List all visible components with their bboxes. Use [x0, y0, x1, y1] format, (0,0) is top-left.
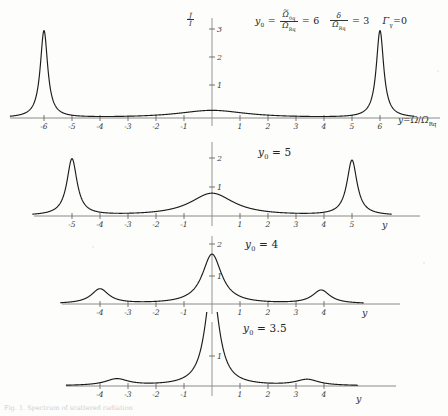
- panel4-yticks: 1: [209, 352, 222, 361]
- svg-text:1: 1: [238, 220, 243, 229]
- panel4-x-axis-label: y: [355, 393, 362, 404]
- svg-text:5: 5: [350, 220, 355, 229]
- svg-text:-1: -1: [180, 122, 187, 130]
- figure-root: y0 = Ω0q ΩRq = 6 δ ΩRq = 3 Γγ=0 J I y=Ω/…: [0, 0, 448, 416]
- svg-text:3: 3: [217, 25, 222, 34]
- svg-text:-4: -4: [96, 390, 104, 399]
- figure-caption: Fig. 1. Spectrum of scattered radiation: [4, 404, 444, 416]
- scan-speck: [92, 246, 94, 248]
- svg-text:-5: -5: [68, 122, 76, 130]
- svg-text:2: 2: [216, 53, 222, 62]
- svg-text:1: 1: [217, 352, 222, 361]
- svg-text:1: 1: [238, 122, 243, 130]
- svg-text:-4: -4: [96, 122, 104, 130]
- svg-text:5: 5: [350, 122, 355, 130]
- svg-text:1: 1: [238, 390, 243, 399]
- svg-text:-6: -6: [40, 122, 48, 130]
- svg-text:-2: -2: [152, 220, 160, 229]
- panel4-xticklabels: -4 -3 -2 -1 1 2 3 4: [96, 390, 326, 399]
- svg-text:3: 3: [294, 122, 299, 130]
- svg-text:-5: -5: [68, 220, 76, 229]
- svg-text:2: 2: [265, 220, 271, 229]
- panel2-xticklabels: -5 -4 -3 -2 -1 1 2 3 4 5: [68, 220, 354, 229]
- panel-label-2: y0 = 5: [258, 146, 291, 161]
- svg-text:2: 2: [265, 390, 271, 399]
- svg-text:-3: -3: [124, 390, 132, 399]
- panel-y0-5: -5 -4 -3 -2 -1 1 2 3 4 5 1 2 y: [0, 130, 448, 230]
- svg-text:2: 2: [216, 154, 222, 163]
- panel-y0-3p5: -4 -3 -2 -1 1 2 3 4 1 y: [0, 312, 448, 408]
- svg-text:-2: -2: [152, 122, 160, 130]
- panel-label-4: y0 = 3.5: [243, 322, 287, 337]
- panel2-yticks: 1 2: [209, 154, 222, 192]
- svg-text:-3: -3: [124, 220, 132, 229]
- svg-text:-1: -1: [180, 220, 187, 229]
- svg-text:4: 4: [321, 220, 327, 229]
- svg-text:1: 1: [217, 183, 222, 192]
- panel3-yticks: 1 2: [209, 240, 222, 281]
- svg-text:4: 4: [321, 390, 327, 399]
- svg-text:-2: -2: [152, 390, 160, 399]
- svg-text:-1: -1: [180, 390, 187, 399]
- svg-text:6: 6: [378, 122, 383, 130]
- svg-text:-3: -3: [124, 122, 132, 130]
- svg-text:-4: -4: [96, 220, 104, 229]
- panel1-yticks: 1 2 3: [209, 25, 222, 90]
- panel-y0-4: -4 -3 -2 -1 1 2 3 4 1 2 y: [0, 230, 448, 322]
- svg-text:2: 2: [265, 122, 271, 130]
- svg-text:3: 3: [294, 220, 299, 229]
- svg-text:1: 1: [217, 81, 222, 90]
- panel1-xticklabels: -6 -5 -4 -3 -2 -1 1 2 3 4 5 6: [40, 122, 382, 130]
- svg-text:3: 3: [294, 390, 299, 399]
- scan-speck: [423, 262, 425, 264]
- panel-label-3: y0 = 4: [245, 238, 278, 253]
- svg-text:2: 2: [216, 240, 222, 249]
- panel-y0-6: -6 -5 -4 -3 -2 -1 1 2 3 4 5 6 1 2 3: [0, 0, 448, 130]
- svg-text:4: 4: [321, 122, 327, 130]
- panel2-x-axis-label: y: [381, 219, 388, 230]
- scan-speck: [437, 70, 439, 72]
